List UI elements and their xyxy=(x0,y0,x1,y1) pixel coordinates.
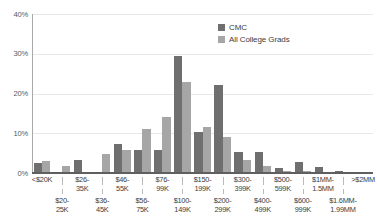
legend-item: CMC xyxy=(218,22,290,32)
y-tick-label: 40% xyxy=(0,10,28,19)
x-label-cell: >$2MM xyxy=(353,174,373,224)
y-tick-label: 20% xyxy=(0,89,28,98)
legend-label: All College Grads xyxy=(229,35,290,44)
x-axis-tick-labels: <$20K$20- 25K$26- 35K$36- 45K$46- 55K$56… xyxy=(32,174,373,224)
legend-label: CMC xyxy=(229,23,247,32)
legend-swatch-icon xyxy=(218,36,225,43)
chart-legend: CMCAll College Grads xyxy=(218,22,290,46)
income-distribution-bar-chart: 0%10%20%30%40% <$20K$20- 25K$26- 35K$36-… xyxy=(0,0,377,224)
legend-item: All College Grads xyxy=(218,34,290,44)
legend-swatch-icon xyxy=(218,24,225,31)
y-tick-label: 10% xyxy=(0,129,28,138)
x-tick-label: >$2MM xyxy=(340,176,377,185)
y-tick-label: 30% xyxy=(0,49,28,58)
